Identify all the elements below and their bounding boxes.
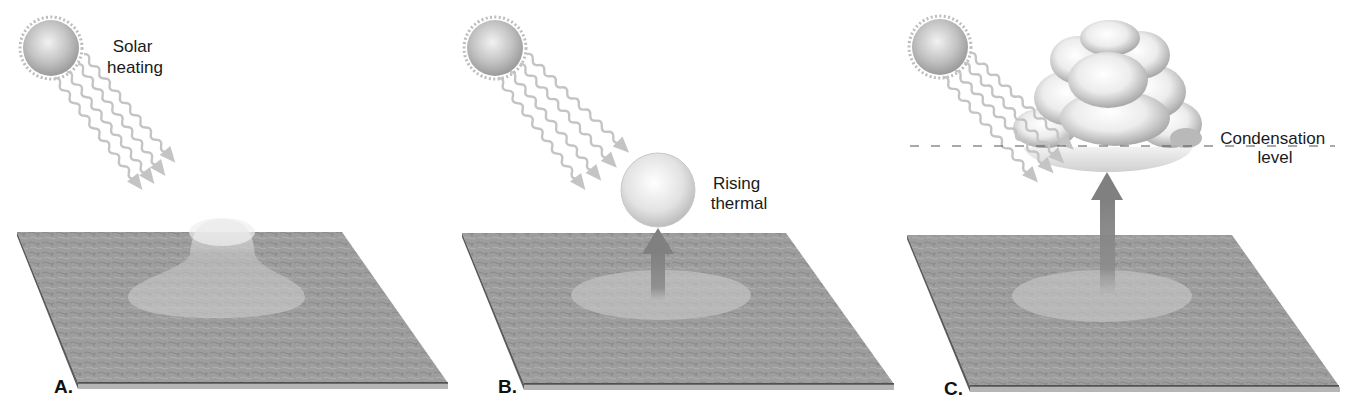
- panel-c: Condensation level C.: [907, 16, 1340, 399]
- sun-icon-b: [464, 17, 526, 79]
- label-solar-heating: Solar heating: [107, 37, 163, 77]
- panel-letter-a: A.: [54, 376, 73, 397]
- sun-icon-a: [20, 17, 82, 79]
- panel-letter-b: B.: [498, 376, 517, 397]
- label-rising-thermal: Rising thermal: [711, 174, 768, 213]
- panel-a: Solar heating A.: [17, 17, 448, 397]
- cumulus-cloud-icon: [1013, 20, 1202, 148]
- sun-icon-c: [909, 16, 971, 78]
- panel-b: Rising thermal B.: [462, 17, 894, 397]
- solar-rays-b: [492, 49, 634, 194]
- rising-thermal-bubble-icon: [621, 153, 695, 227]
- label-condensation-level: Condensation level: [1220, 129, 1330, 167]
- panel-letter-c: C.: [944, 378, 963, 399]
- thermal-cloud-formation-diagram: Solar heating A. Rising: [0, 0, 1372, 415]
